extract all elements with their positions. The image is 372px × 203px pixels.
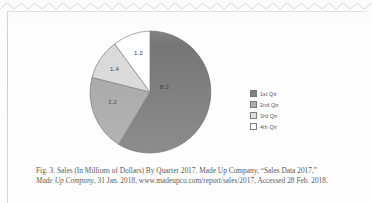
page-border-top: [7, 11, 367, 12]
legend-label-2nd-qtr: 2nd Qtr: [260, 102, 279, 108]
pie-label-1st-qtr: 8.2: [160, 84, 169, 90]
legend-swatch-1st-qtr: [250, 90, 257, 97]
legend-swatch-2nd-qtr: [250, 101, 257, 108]
legend-swatch-4th-qtr: [250, 123, 257, 130]
caption-line-2: Made Up Company, 31 Jan. 2018, www.madeu…: [36, 176, 342, 186]
pie-chart-svg: [86, 28, 214, 156]
document-page: 8.2 3.2 1.4 1.2 1st Qtr 2nd Qtr 3rd Qtr …: [0, 0, 372, 203]
pie-label-3rd-qtr: 1.4: [110, 66, 119, 72]
caption-source-title: Made Up Company: [36, 176, 94, 185]
legend-swatch-3rd-qtr: [250, 112, 257, 119]
legend-item-3rd-qtr: 3rd Qtr: [250, 110, 310, 121]
figure-sales-pie-chart: 8.2 3.2 1.4 1.2 1st Qtr 2nd Qtr 3rd Qtr …: [0, 14, 372, 203]
pie-label-2nd-qtr: 3.2: [108, 99, 117, 105]
legend-label-4th-qtr: 4th Qtr: [260, 124, 277, 130]
figure-caption: Fig. 3. Sales (In Millions of Dollars) B…: [36, 166, 342, 187]
pie-label-4th-qtr: 1.2: [134, 50, 143, 56]
legend-label-1st-qtr: 1st Qtr: [260, 91, 277, 97]
legend-item-1st-qtr: 1st Qtr: [250, 88, 310, 99]
legend-item-4th-qtr: 4th Qtr: [250, 121, 310, 132]
caption-line-1: Fig. 3. Sales (In Millions of Dollars) B…: [36, 166, 342, 176]
caption-citation-rest: , 31 Jan. 2018, www.madeupco.com/report/…: [94, 176, 328, 185]
legend-label-3rd-qtr: 3rd Qtr: [260, 113, 277, 119]
pie-chart: 8.2 3.2 1.4 1.2: [86, 28, 214, 156]
legend-item-2nd-qtr: 2nd Qtr: [250, 99, 310, 110]
chart-legend: 1st Qtr 2nd Qtr 3rd Qtr 4th Qtr: [250, 88, 310, 132]
